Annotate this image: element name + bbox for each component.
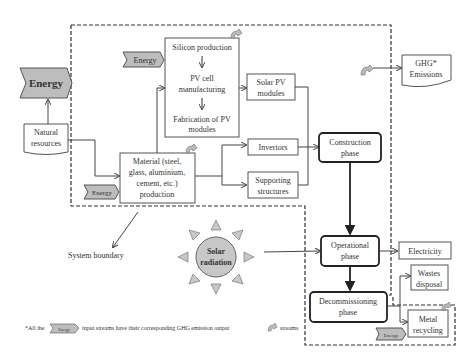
svg-text:Energy: Energy: [92, 189, 113, 197]
svg-text:production: production: [140, 190, 175, 199]
natural-resources-box: Natural resources: [24, 124, 68, 155]
svg-text:Energy: Energy: [134, 56, 157, 65]
svg-text:PV cell: PV cell: [190, 74, 214, 83]
system-boundary-label: System boundary: [68, 251, 124, 260]
solar-pv-modules-box: Solar PV modules: [247, 74, 295, 100]
svg-text:*All the: *All the: [25, 325, 45, 331]
svg-text:phase: phase: [339, 308, 358, 317]
svg-text:Electricity: Electricity: [408, 247, 441, 256]
ghg-emission-icon: [268, 323, 277, 331]
svg-text:Fabrication of PV: Fabrication of PV: [173, 115, 231, 124]
svg-text:resources: resources: [31, 139, 61, 148]
wastes-disposal-box: Wastes disposal: [411, 265, 448, 290]
svg-text:manufacturing: manufacturing: [179, 85, 226, 94]
svg-text:cement, etc.): cement, etc.): [136, 179, 177, 188]
svg-text:Supporting: Supporting: [255, 176, 291, 185]
invertors-box: Invertors: [248, 139, 298, 155]
supporting-structures-box: Supporting structures: [248, 172, 298, 198]
svg-text:Silicon production: Silicon production: [172, 43, 231, 52]
svg-text:disposal: disposal: [416, 280, 443, 289]
svg-text:structures: structures: [257, 187, 288, 196]
svg-text:Energy: Energy: [58, 327, 69, 332]
svg-text:Metal: Metal: [419, 315, 438, 324]
svg-text:GHG*: GHG*: [415, 59, 436, 68]
svg-text:Wastes: Wastes: [418, 269, 440, 278]
svg-text:Energy: Energy: [384, 333, 399, 338]
svg-text:Decommissioning: Decommissioning: [319, 297, 377, 306]
footnote: *All the Energy input streams have their…: [25, 323, 299, 333]
energy-input-silicon: Energy: [123, 52, 164, 67]
ghg-emission-icon: [442, 302, 451, 310]
solar-radiation-sun: Solar radiation: [178, 220, 254, 294]
construction-phase-box: Construction phase: [319, 133, 381, 162]
energy-input-material: Energy: [84, 185, 119, 199]
ghg-emission-icon: [361, 65, 373, 75]
svg-text:streams: streams: [280, 325, 299, 331]
svg-text:Emissions: Emissions: [410, 70, 443, 79]
ghg-emissions-box: GHG* Emissions: [402, 55, 451, 87]
svg-text:Solar: Solar: [207, 247, 226, 256]
svg-text:radiation: radiation: [200, 258, 232, 267]
svg-text:recycling: recycling: [413, 326, 443, 335]
material-production-box: Material (steel, glass, aluminium, cemen…: [120, 153, 195, 203]
ghg-emission-icon: [186, 144, 197, 153]
energy-input-main: Energy: [20, 68, 72, 98]
pv-manufacturing-box: Silicon production PV cell manufacturing…: [165, 38, 239, 137]
svg-text:Energy: Energy: [29, 77, 64, 89]
svg-text:Invertors: Invertors: [259, 143, 288, 152]
decommissioning-phase-box: Decommissioning phase: [310, 292, 387, 322]
energy-input-recycling: Energy: [376, 328, 406, 340]
lca-diagram: Energy Natural resources Energy Silicon …: [0, 0, 476, 363]
svg-text:Operational: Operational: [331, 241, 370, 250]
svg-text:modules: modules: [188, 125, 215, 134]
svg-text:input streams have their corre: input streams have their corresponding G…: [82, 325, 230, 331]
svg-text:glass, aluminium,: glass, aluminium,: [129, 168, 186, 177]
svg-text:phase: phase: [341, 149, 360, 158]
operational-phase-box: Operational phase: [321, 236, 379, 266]
electricity-box: Electricity: [399, 242, 451, 259]
svg-text:modules: modules: [257, 89, 284, 98]
svg-text:Natural: Natural: [34, 128, 59, 137]
svg-text:Construction: Construction: [329, 138, 370, 147]
svg-text:Solar PV: Solar PV: [256, 78, 285, 87]
ghg-emission-icon: [231, 29, 242, 38]
svg-text:phase: phase: [341, 252, 360, 261]
metal-recycling-box: Metal recycling: [408, 310, 448, 337]
svg-text:Material (steel,: Material (steel,: [133, 157, 181, 166]
